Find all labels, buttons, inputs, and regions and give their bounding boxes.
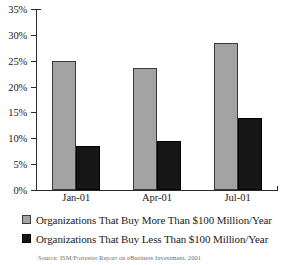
y-tick-mark — [31, 61, 37, 62]
y-tick-label: 5% — [13, 159, 27, 170]
legend-item-more: Organizations That Buy More Than $100 Mi… — [22, 210, 283, 229]
y-axis-tick-labels: 0%5%10%15%20%25%30%35% — [0, 0, 30, 196]
y-tick-mark — [31, 9, 37, 10]
legend-swatch-less-icon — [22, 234, 31, 243]
plot-area: 0%5%10%15%20%25%30%35% Jan-01Apr-01Jul-0… — [0, 0, 283, 196]
bar-chart-figure: 0%5%10%15%20%25%30%35% Jan-01Apr-01Jul-0… — [0, 0, 283, 265]
legend-label-less: Organizations That Buy Less Than $100 Mi… — [36, 233, 268, 245]
x-tick-label: Jul-01 — [225, 192, 251, 203]
y-tick-mark — [31, 164, 37, 165]
y-tick-mark — [31, 87, 37, 88]
legend-label-more: Organizations That Buy More Than $100 Mi… — [36, 214, 272, 226]
x-tick-label: Jan-01 — [62, 192, 90, 203]
y-tick-mark — [31, 35, 37, 36]
bar-more-jan-01 — [52, 61, 76, 190]
bar-more-apr-01 — [133, 68, 157, 190]
y-tick-mark — [31, 112, 37, 113]
bar-less-jan-01 — [76, 146, 100, 190]
y-tick-label: 30% — [8, 29, 27, 40]
x-axis-tick-labels: Jan-01Apr-01Jul-01 — [36, 192, 278, 208]
y-tick-mark — [31, 190, 37, 191]
bar-less-jul-01 — [238, 118, 262, 190]
y-tick-label: 35% — [8, 4, 27, 15]
bar-less-apr-01 — [157, 141, 181, 190]
bars-layer — [36, 0, 278, 191]
y-tick-label: 0% — [13, 185, 27, 196]
x-tick-label: Apr-01 — [142, 192, 172, 203]
chart-legend: Organizations That Buy More Than $100 Mi… — [22, 210, 283, 248]
y-tick-label: 20% — [8, 81, 27, 92]
legend-swatch-more-icon — [22, 215, 31, 224]
y-tick-mark — [31, 138, 37, 139]
y-tick-label: 10% — [8, 133, 27, 144]
y-tick-label: 15% — [8, 107, 27, 118]
bar-more-jul-01 — [214, 43, 238, 190]
source-note: Source: ISM/Forrester Report on eBusines… — [38, 254, 201, 261]
legend-item-less: Organizations That Buy Less Than $100 Mi… — [22, 229, 283, 248]
y-tick-label: 25% — [8, 55, 27, 66]
